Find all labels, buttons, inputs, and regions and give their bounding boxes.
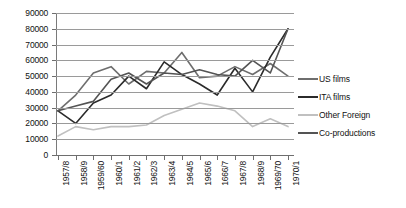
legend-label: US films [319,75,350,84]
x-axis-tick-label: 1963/4 [168,161,177,186]
y-axis-tick [52,45,56,46]
x-axis-tick-label: 1970/1 [292,161,301,186]
x-axis-tick [235,155,236,160]
y-axis-labels: 9000080000700006000050000400003000020000… [0,0,52,156]
y-axis-tick-label: 80000 [25,24,48,33]
series-line [58,29,288,111]
x-axis-tick-label: 1965/6 [204,161,213,186]
x-axis-tick [182,155,183,160]
x-axis-tick [200,155,201,160]
plot-area [56,13,294,155]
legend-label: Co-productions [319,129,375,138]
x-axis-tick [146,155,147,160]
x-axis-tick-label: 1957/8 [62,161,71,186]
x-axis-tick-label: 1967/8 [239,161,248,186]
gridline [56,45,294,46]
y-axis-tick [52,108,56,109]
x-axis-tick [270,155,271,160]
legend-swatch [298,78,318,80]
gridline [56,139,294,140]
y-axis-tick-label: 0 [43,151,48,160]
x-axis-tick [76,155,77,160]
x-axis-tick-label: 1962/3 [150,161,159,186]
x-axis-ticks [56,155,294,160]
gridline [56,108,294,109]
x-axis-tick [111,155,112,160]
legend-swatch [298,96,318,98]
x-axis-tick [129,155,130,160]
y-axis-tick-label: 10000 [25,135,48,144]
x-axis-tick-label: 1666/7 [221,161,230,186]
chart-legend: US filmsITA filmsOther ForeignCo-product… [298,70,404,142]
legend-swatch [298,114,318,116]
x-axis-tick-label: 1961/2 [133,161,142,186]
y-axis-tick [52,155,56,156]
y-axis-tick-label: 20000 [25,119,48,128]
series-lines [56,13,294,155]
y-axis-tick-label: 30000 [25,103,48,112]
gridline [56,60,294,61]
y-axis-tick-label: 40000 [25,87,48,96]
legend-swatch [298,132,318,134]
y-axis-tick-label: 50000 [25,72,48,81]
y-axis-tick [52,92,56,93]
legend-item[interactable]: ITA films [298,88,404,106]
x-axis-tick-label: 1964/5 [186,161,195,186]
x-axis-tick-label: 1969/70 [274,161,283,190]
legend-item[interactable]: Other Foreign [298,106,404,124]
y-axis-tick-label: 90000 [25,9,48,18]
x-axis-tick-label: 1959/60 [97,161,106,190]
y-axis-tick [52,13,56,14]
gridline [56,92,294,93]
y-axis-tick [52,29,56,30]
x-axis-tick-label: 1968/9 [257,161,266,186]
y-axis-tick-label: 70000 [25,40,48,49]
x-axis-tick-label: 1958/9 [80,161,89,186]
legend-label: Other Foreign [319,111,370,120]
legend-item[interactable]: Co-productions [298,124,404,142]
gridline [56,123,294,124]
x-axis-labels: 1957/81958/91959/601960/11961/21962/3196… [56,161,294,206]
y-axis-tick [52,76,56,77]
gridline [56,29,294,30]
x-axis-tick [217,155,218,160]
chart-figure: 9000080000700006000050000400003000020000… [0,0,406,208]
x-axis-tick [288,155,289,160]
x-axis-tick-label: 1960/1 [115,161,124,186]
y-axis-tick-label: 60000 [25,56,48,65]
x-axis-tick [93,155,94,160]
x-axis-tick [58,155,59,160]
y-axis-tick [52,123,56,124]
legend-item[interactable]: US films [298,70,404,88]
gridline [56,76,294,77]
gridline [56,13,294,14]
x-axis-tick [253,155,254,160]
y-axis-tick [52,139,56,140]
y-axis-tick [52,60,56,61]
x-axis-tick [164,155,165,160]
legend-label: ITA films [319,93,350,102]
